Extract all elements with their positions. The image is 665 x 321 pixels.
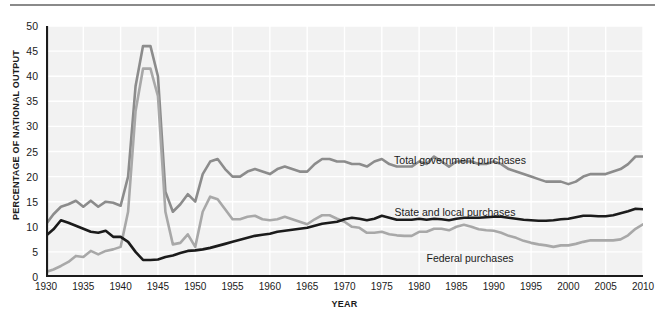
y-tick-label: 40: [8, 71, 38, 81]
x-tick-label: 1950: [175, 281, 215, 292]
x-tick-label: 1970: [325, 281, 365, 292]
x-tick-label: 1985: [436, 281, 476, 292]
x-tick-label: 1955: [213, 281, 253, 292]
x-axis-title: YEAR: [46, 299, 643, 309]
y-tick-label: 35: [8, 96, 38, 106]
y-tick-label: 50: [8, 21, 38, 31]
y-tick-label: 15: [8, 197, 38, 207]
y-tick-label: 30: [8, 121, 38, 131]
x-tick-label: 1995: [511, 281, 551, 292]
x-tick-label: 1930: [26, 281, 66, 292]
top-divider: [10, 4, 655, 6]
series-label: Federal purchases: [427, 252, 514, 264]
x-tick-label: 1975: [362, 281, 402, 292]
x-tick-label: 1935: [63, 281, 103, 292]
y-tick-label: 20: [8, 172, 38, 182]
chart-canvas: [46, 26, 643, 277]
x-tick-label: 1945: [138, 281, 178, 292]
x-tick-label: 1940: [101, 281, 141, 292]
y-axis-title: PERCENTAGE OF NATIONAL OUTPUT: [11, 25, 21, 245]
chart-figure: PERCENTAGE OF NATIONAL OUTPUT 0510152025…: [0, 0, 665, 321]
series-label: Total government purchases: [394, 154, 526, 166]
x-tick-label: 2010: [623, 281, 663, 292]
x-tick-label: 2000: [548, 281, 588, 292]
x-tick-label: 1980: [399, 281, 439, 292]
y-tick-label: 10: [8, 222, 38, 232]
series-label: State and local purchases: [395, 206, 516, 218]
y-tick-label: 5: [8, 247, 38, 257]
y-tick-label: 25: [8, 147, 38, 157]
plot-area: [46, 26, 643, 277]
x-tick-label: 1990: [474, 281, 514, 292]
y-tick-label: 45: [8, 46, 38, 56]
x-tick-label: 1960: [250, 281, 290, 292]
x-tick-label: 1965: [287, 281, 327, 292]
x-tick-label: 2005: [586, 281, 626, 292]
